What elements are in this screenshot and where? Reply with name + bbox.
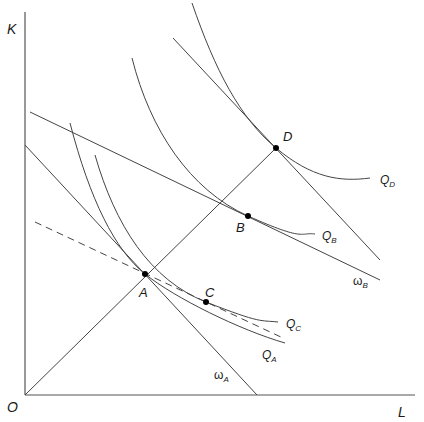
isocost-line-wB — [30, 112, 380, 280]
label-wB: ωB — [353, 274, 368, 290]
label-QD: QD — [380, 173, 395, 189]
label-wA: ωA — [214, 368, 229, 384]
label-QB: QB — [322, 229, 337, 245]
isoquant-diagram: K L O A B C D QD QB QC QA ωB ωA — [0, 0, 424, 422]
dashed-isocost-line — [35, 222, 283, 338]
point-label-D: D — [283, 129, 292, 144]
point-label-C: C — [205, 285, 215, 300]
origin-label: O — [7, 399, 18, 415]
label-QC: QC — [286, 317, 301, 333]
point-D — [273, 145, 279, 151]
label-QA: QA — [262, 348, 277, 364]
point-label-B: B — [236, 220, 245, 235]
point-B — [245, 213, 251, 219]
point-A — [142, 271, 148, 277]
isoquant-curve-QD — [192, 3, 370, 179]
isoquant-curve-QC — [95, 155, 278, 322]
point-label-A: A — [138, 285, 148, 300]
x-axis-label: L — [398, 404, 406, 420]
isoquant-curve-QB — [132, 58, 315, 234]
y-axis-label: K — [7, 21, 17, 37]
